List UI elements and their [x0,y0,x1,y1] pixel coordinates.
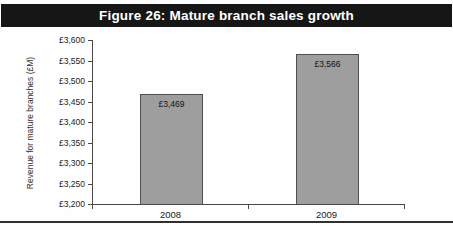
bar-value-label: £3,566 [297,59,358,69]
y-tick-label: £3,500 [5,76,85,86]
figure-bottom-rule [0,221,453,223]
x-category-label: 2008 [139,209,202,220]
figure-title: Figure 26: Mature branch sales growth [99,8,354,23]
y-tick-label: £3,600 [5,35,85,45]
plot-area: £3,469£3,566 [92,40,405,205]
y-tick-label: £3,250 [5,179,85,189]
y-tick-label: £3,450 [5,97,85,107]
y-tick-label: £3,350 [5,138,85,148]
x-category-label: 2009 [295,209,358,220]
y-tick-label: £3,550 [5,56,85,66]
x-axis-labels: 20082009 [92,209,404,221]
bar-value-label: £3,469 [141,99,202,109]
y-tick-label: £3,300 [5,158,85,168]
y-tick-label: £3,200 [5,199,85,209]
bar-2009: £3,566 [296,54,359,204]
figure-page: Figure 26: Mature branch sales growth Re… [0,0,453,234]
y-axis: £3,600£3,550£3,500£3,450£3,400£3,350£3,3… [0,40,92,204]
x-tick-mark [404,205,405,209]
figure-title-bar: Figure 26: Mature branch sales growth [1,4,452,27]
y-tick-label: £3,400 [5,117,85,127]
bar-2008: £3,469 [140,94,203,204]
